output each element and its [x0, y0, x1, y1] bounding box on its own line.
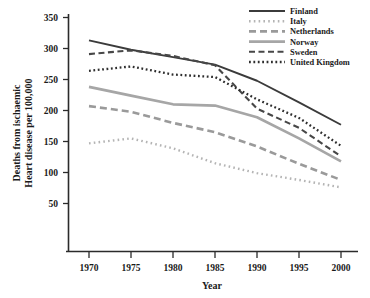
- y-axis-title-line2: Heart disease per 100,000: [23, 78, 34, 187]
- legend-label-sweden: Sweden: [290, 48, 318, 57]
- legend-label-united-kingdom: United Kingdom: [290, 58, 350, 67]
- x-tick-label: 1985: [206, 263, 225, 273]
- y-axis-ticks: 50100150200250300350: [44, 13, 69, 209]
- series-line-netherlands: [89, 106, 341, 180]
- chart-legend: FinlandItalyNetherlandsNorwaySwedenUnite…: [249, 7, 350, 67]
- legend-label-finland: Finland: [290, 7, 318, 16]
- y-axis-title-line1: Deaths from ischaemic: [11, 84, 22, 182]
- legend-label-netherlands: Netherlands: [290, 27, 334, 36]
- y-tick-label: 350: [44, 13, 59, 23]
- y-tick-label: 50: [49, 199, 59, 209]
- y-tick-label: 200: [44, 106, 59, 116]
- chart-figure: 50100150200250300350 1970197519801985199…: [0, 0, 370, 298]
- x-tick-label: 2000: [332, 263, 351, 273]
- x-tick-label: 1975: [122, 263, 141, 273]
- y-tick-label: 250: [44, 75, 59, 85]
- y-tick-label: 150: [44, 137, 59, 147]
- legend-label-norway: Norway: [290, 38, 319, 47]
- y-tick-label: 300: [44, 44, 59, 54]
- series-line-norway: [89, 87, 341, 161]
- line-chart: 50100150200250300350 1970197519801985199…: [0, 0, 370, 298]
- x-tick-label: 1980: [164, 263, 183, 273]
- x-tick-label: 1970: [80, 263, 99, 273]
- series-line-italy: [89, 138, 341, 187]
- legend-label-italy: Italy: [290, 17, 308, 26]
- y-tick-label: 100: [44, 168, 59, 178]
- x-axis-ticks: 1970197519801985199019952000: [80, 252, 351, 274]
- x-axis-title: Year: [202, 280, 223, 291]
- x-tick-label: 1995: [290, 263, 309, 273]
- x-tick-label: 1990: [248, 263, 267, 273]
